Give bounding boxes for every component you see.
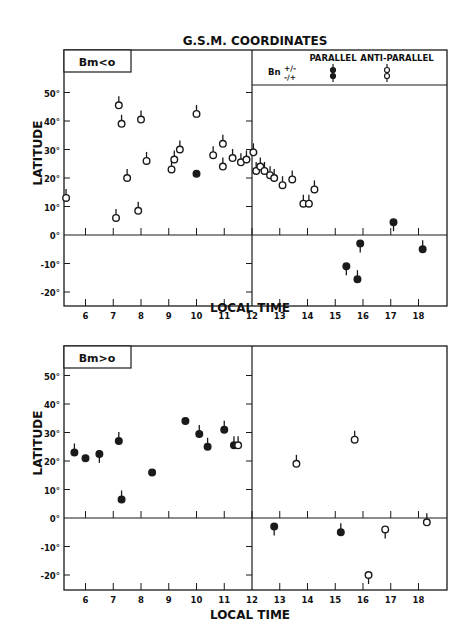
- data-point: [63, 195, 70, 202]
- data-point: [204, 443, 211, 450]
- y-tick-label: 50°: [44, 372, 60, 382]
- data-point: [193, 170, 200, 177]
- x-tick-label: 15: [329, 311, 341, 321]
- y-tick-label: 20°: [44, 174, 60, 184]
- data-point: [71, 449, 78, 456]
- data-point: [220, 141, 227, 148]
- y-axis-label: LATITUDE: [31, 121, 45, 186]
- data-point: [168, 166, 175, 173]
- y-tick-label: 40°: [44, 117, 60, 127]
- data-point: [143, 158, 150, 165]
- data-point: [118, 121, 125, 128]
- data-point: [82, 455, 89, 462]
- data-point: [243, 156, 250, 163]
- x-tick-label: 14: [302, 311, 314, 321]
- data-point: [124, 175, 131, 182]
- legend: PARALLELANTI-PARALLELBn+/--/+: [252, 53, 447, 85]
- data-point: [293, 461, 300, 468]
- x-tick-label: 17: [385, 595, 397, 605]
- panel-bm-positive: Bm>o50°40°30°20°10°0°-10°-20°67891011121…: [31, 346, 447, 622]
- y-tick-label: 10°: [44, 486, 60, 496]
- x-tick-label: 17: [385, 311, 397, 321]
- y-tick-label: -10°: [40, 260, 60, 270]
- y-tick-label: 10°: [44, 203, 60, 213]
- y-tick-label: 0°: [50, 514, 60, 524]
- legend-sign-row1: +/-: [284, 64, 296, 73]
- data-point: [113, 215, 120, 222]
- x-tick-label: 18: [413, 311, 425, 321]
- data-point: [116, 438, 123, 445]
- data-point: [118, 496, 125, 503]
- data-point: [365, 572, 372, 579]
- data-point: [220, 163, 227, 170]
- data-point: [271, 175, 278, 182]
- legend-marker: [331, 74, 336, 79]
- x-tick-label: 12: [246, 595, 258, 605]
- x-tick-label: 10: [191, 595, 203, 605]
- y-tick-label: 40°: [44, 400, 60, 410]
- y-tick-label: -20°: [40, 288, 60, 298]
- data-point: [279, 182, 286, 189]
- x-tick-label: 13: [274, 595, 286, 605]
- data-point: [182, 418, 189, 425]
- x-tick-label: 7: [110, 311, 116, 321]
- y-tick-label: -20°: [40, 571, 60, 581]
- data-point: [351, 436, 358, 443]
- y-tick-label: 30°: [44, 429, 60, 439]
- x-tick-label: 15: [329, 595, 341, 605]
- x-tick-label: 7: [110, 595, 116, 605]
- legend-bn-label: Bn: [268, 67, 281, 77]
- data-point: [289, 176, 296, 183]
- data-point: [382, 526, 389, 533]
- data-point: [250, 149, 257, 156]
- plot-frame: [64, 50, 447, 306]
- data-point: [419, 246, 426, 253]
- figure-title: G.S.M. COORDINATES: [183, 34, 328, 48]
- data-point: [357, 240, 364, 247]
- y-axis-label: LATITUDE: [31, 411, 45, 476]
- data-point: [229, 155, 236, 162]
- data-point: [390, 219, 397, 226]
- y-tick-label: 50°: [44, 89, 60, 99]
- y-tick-label: -10°: [40, 543, 60, 553]
- x-tick-label: 10: [191, 311, 203, 321]
- series-parallel: [193, 170, 426, 282]
- data-point: [138, 116, 145, 123]
- figure: G.S.M. COORDINATES Bm<o50°40°30°20°10°0°…: [0, 0, 465, 631]
- data-point: [271, 523, 278, 530]
- data-point: [149, 469, 156, 476]
- x-tick-label: 11: [218, 595, 230, 605]
- data-point: [343, 263, 350, 270]
- y-tick-label: 0°: [50, 231, 60, 241]
- panel-label: Bm>o: [79, 352, 116, 365]
- x-tick-label: 9: [166, 311, 172, 321]
- x-tick-label: 18: [413, 595, 425, 605]
- x-tick-label: 6: [83, 311, 89, 321]
- data-point: [221, 426, 228, 433]
- data-point: [96, 451, 103, 458]
- legend-marker: [385, 68, 390, 73]
- legend-marker: [331, 68, 336, 73]
- data-point: [354, 276, 361, 283]
- series-anti-parallel: [63, 96, 318, 221]
- x-tick-label: 8: [138, 595, 144, 605]
- legend-marker: [385, 74, 390, 79]
- data-point: [135, 207, 142, 214]
- data-point: [311, 186, 318, 193]
- data-point: [193, 111, 200, 118]
- legend-sign-row2: -/+: [284, 73, 296, 82]
- x-tick-label: 8: [138, 311, 144, 321]
- panels: Bm<o50°40°30°20°10°0°-10°-20°67891011121…: [31, 50, 447, 622]
- data-point: [177, 146, 184, 153]
- series-anti-parallel: [235, 431, 430, 584]
- data-point: [196, 431, 203, 438]
- x-tick-label: 6: [83, 595, 89, 605]
- data-point: [424, 519, 431, 526]
- data-point: [210, 152, 217, 159]
- y-tick-label: 30°: [44, 146, 60, 156]
- x-tick-label: 14: [302, 595, 314, 605]
- plot-frame: [64, 346, 447, 590]
- x-tick-label: 16: [357, 595, 369, 605]
- x-axis-label: LOCAL TIME: [210, 301, 290, 315]
- legend-antiparallel-header: ANTI-PARALLEL: [360, 53, 434, 63]
